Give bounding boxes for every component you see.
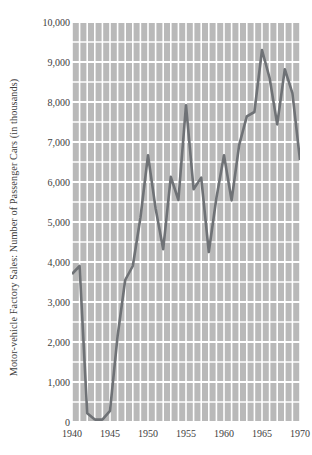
x-tick-label: 1960 (214, 428, 234, 439)
x-tick-label: 1970 (290, 428, 310, 439)
chart-figure: Motor-vehicle Factory Sales: Number of P… (0, 0, 312, 455)
x-tick-label: 1965 (252, 428, 272, 439)
x-axis-tick-labels: 1940194519501955196019651970 (0, 0, 312, 455)
x-tick-label: 1950 (138, 428, 158, 439)
x-tick-label: 1945 (100, 428, 120, 439)
x-tick-label: 1955 (176, 428, 196, 439)
x-tick-label: 1940 (62, 428, 82, 439)
